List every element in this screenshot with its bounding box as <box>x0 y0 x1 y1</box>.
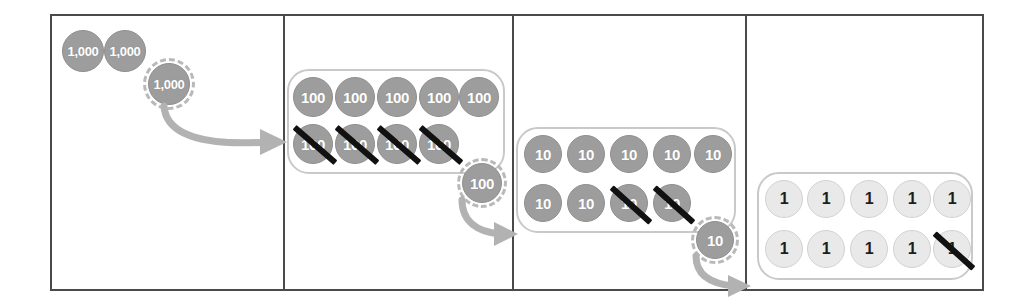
tens-panel: 10 10 10 10 10 10 10 10 10 10 <box>514 16 745 289</box>
chip-hundred-r1c2[interactable]: 100 <box>335 77 375 117</box>
chip-ten-r1c5[interactable]: 10 <box>694 135 732 173</box>
chip-label: 1 <box>908 241 917 257</box>
chip-label: 1 <box>822 241 831 257</box>
chip-label: 100 <box>301 90 325 105</box>
chip-label: 100 <box>343 90 367 105</box>
chip-label: 10 <box>535 147 551 162</box>
chip-ten-r1c1[interactable]: 10 <box>524 135 562 173</box>
chip-thousand-1[interactable]: 1,000 <box>62 30 104 72</box>
ones-panel: 1 1 1 1 1 1 1 1 1 1 <box>747 16 982 289</box>
chip-hundred-r1c4[interactable]: 100 <box>419 77 459 117</box>
chip-label: 100 <box>385 90 409 105</box>
chip-hundred-r1c1[interactable]: 100 <box>293 77 333 117</box>
chip-label: 10 <box>621 147 637 162</box>
chip-label: 1 <box>948 191 957 207</box>
chip-label: 10 <box>535 196 551 211</box>
chip-ten-r1c3[interactable]: 10 <box>610 135 648 173</box>
chip-one-r1c2[interactable]: 1 <box>807 180 845 218</box>
chip-label: 10 <box>705 147 721 162</box>
chip-label: 100 <box>427 90 451 105</box>
chip-one-r1c3[interactable]: 1 <box>850 180 888 218</box>
dashed-selection-ring-thousand <box>143 58 195 110</box>
chip-one-r2c3[interactable]: 1 <box>850 230 888 268</box>
chip-hundred-r1c3[interactable]: 100 <box>377 77 417 117</box>
chip-label: 10 <box>664 147 680 162</box>
chip-one-r2c1[interactable]: 1 <box>765 230 803 268</box>
chip-one-r2c2[interactable]: 1 <box>807 230 845 268</box>
thousands-panel: 1,000 1,000 1,000 <box>52 16 283 289</box>
chip-label: 1,000 <box>67 45 98 58</box>
chip-label: 100 <box>467 90 491 105</box>
dashed-selection-ring-ten <box>691 216 739 264</box>
chip-label: 1,000 <box>109 45 140 58</box>
chip-label: 10 <box>578 147 594 162</box>
chip-one-r1c5[interactable]: 1 <box>933 180 971 218</box>
chip-label: 1 <box>865 191 874 207</box>
place-value-diagram-frame: 1,000 1,000 1,000 100 100 100 100 100 10… <box>50 14 984 291</box>
chip-ten-r2c2[interactable]: 10 <box>567 184 605 222</box>
chip-ten-r1c2[interactable]: 10 <box>567 135 605 173</box>
chip-ten-r2c1[interactable]: 10 <box>524 184 562 222</box>
chip-hundred-r1c5[interactable]: 100 <box>459 77 499 117</box>
dashed-selection-ring-hundred <box>457 158 507 208</box>
chip-thousand-2[interactable]: 1,000 <box>104 30 146 72</box>
chip-label: 1 <box>865 241 874 257</box>
chip-ten-r1c4[interactable]: 10 <box>653 135 691 173</box>
chip-label: 1 <box>908 191 917 207</box>
chip-one-r1c1[interactable]: 1 <box>765 180 803 218</box>
chip-label: 1 <box>822 191 831 207</box>
chip-one-r2c4[interactable]: 1 <box>893 230 931 268</box>
hundreds-panel: 100 100 100 100 100 100 100 100 100 100 <box>285 16 512 289</box>
chip-label: 1 <box>780 191 789 207</box>
chip-one-r1c4[interactable]: 1 <box>893 180 931 218</box>
chip-label: 1 <box>780 241 789 257</box>
chip-label: 10 <box>578 196 594 211</box>
